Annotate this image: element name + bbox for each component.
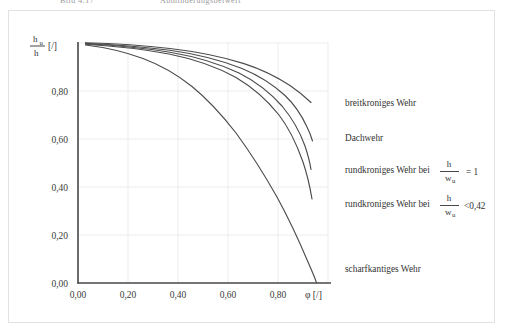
legend-item-rundkroniges-1: rundkroniges Wehr bei h w u = 1	[345, 159, 479, 184]
y-tick-label-2: 0,40	[51, 183, 68, 193]
y-tick-label-3: 0,60	[51, 135, 68, 145]
legend-label-dachwehr: Dachwehr	[345, 133, 384, 143]
y-axis-label: h u h [/]	[30, 34, 57, 58]
legend-frac-denominator-sub-042: u	[452, 211, 456, 218]
legend-frac-numerator-1: h	[447, 159, 452, 169]
legend-suffix-rundkroniges-1: = 1	[466, 167, 479, 177]
curves	[86, 43, 317, 283]
figure-container: Bild 4.17 Abminderungsbeiwert 0,00	[0, 0, 511, 331]
legend-label-rundkroniges-042: rundkroniges Wehr bei	[345, 199, 430, 209]
legend-frac-denominator-1: w	[445, 173, 452, 183]
x-tick-label-3: 0,60	[220, 290, 237, 300]
legend-frac-denominator-042: w	[445, 207, 452, 217]
y-axis-numerator: h	[33, 34, 38, 44]
y-tick-label-4: 0,80	[51, 87, 68, 97]
gridlines	[78, 42, 328, 283]
legend-label-breitkroniges: breitkroniges Wehr	[345, 98, 417, 108]
y-tick-label-0: 0,00	[51, 279, 68, 289]
x-axis-symbol: φ [/]	[305, 290, 322, 300]
x-tick-label-1: 0,20	[120, 290, 137, 300]
legend-frac-numerator-042: h	[447, 193, 452, 203]
x-tick-label-4: 0,80	[270, 290, 287, 300]
legend: breitkroniges Wehr Dachwehr rundkroniges…	[345, 98, 486, 274]
y-tick-label-1: 0,20	[51, 231, 68, 241]
legend-label-rundkroniges-1: rundkroniges Wehr bei	[345, 165, 430, 175]
y-axis-denominator: h	[34, 48, 39, 58]
legend-suffix-rundkroniges-042: <0,42	[464, 201, 486, 211]
axes	[77, 42, 331, 284]
curve-rundkroniges-1	[86, 44, 312, 170]
legend-frac-denominator-sub-1: u	[452, 177, 456, 184]
chart-svg: 0,00 0,20 0,40 0,60 0,80 0,00 0,20 0,40 …	[0, 0, 511, 331]
x-tick-label-2: 0,40	[170, 290, 187, 300]
x-axis-tick-labels: 0,00 0,20 0,40 0,60 0,80	[70, 290, 287, 300]
x-tick-label-0: 0,00	[70, 290, 87, 300]
legend-label-scharfkantiges: scharfkantiges Wehr	[345, 264, 422, 274]
y-axis-tick-labels: 0,00 0,20 0,40 0,60 0,80	[51, 87, 68, 289]
y-axis-unit: [/]	[48, 41, 57, 51]
legend-item-rundkroniges-042: rundkroniges Wehr bei h w u <0,42	[345, 193, 486, 218]
y-axis-numerator-subscript: u	[40, 39, 44, 46]
x-axis-label: φ [/]	[305, 290, 322, 300]
